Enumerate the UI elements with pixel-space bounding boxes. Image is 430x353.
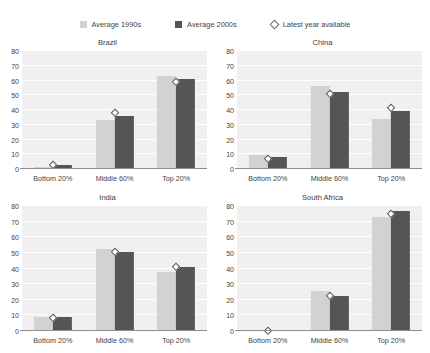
x-axis-tick-label: Top 20%: [377, 336, 405, 345]
plot-area: 01020304050607080Bottom 20%Middle 60%Top…: [237, 206, 422, 331]
bar-average-2000s: [115, 116, 134, 169]
bar-average-2000s: [176, 79, 195, 169]
bar-pair: [157, 51, 195, 169]
bar-average-2000s: [391, 111, 410, 169]
dark-square-swatch-icon: [175, 21, 182, 28]
x-axis-tick-label: Middle 60%: [96, 336, 134, 345]
plot-wrapper: 01020304050607080Bottom 20%Middle 60%Top…: [22, 51, 207, 169]
y-axis-tick-label: 70: [226, 218, 234, 225]
bar-average-1990s: [157, 76, 176, 169]
legend-item-average-2000s: Average 2000s: [175, 20, 237, 29]
y-axis-tick-label: 50: [226, 249, 234, 256]
bar-pair: [249, 206, 287, 331]
y-axis-tick-label: 80: [11, 48, 19, 55]
x-axis-baseline: [235, 168, 422, 169]
bar-groups: Bottom 20%Middle 60%Top 20%: [22, 51, 207, 169]
legend-item-average-1990s: Average 1990s: [80, 20, 142, 29]
x-axis-tick-label: Bottom 20%: [248, 174, 287, 183]
y-axis-tick-label: 40: [226, 107, 234, 114]
x-axis-baseline: [20, 168, 207, 169]
chart-panel-brazil: Brazil01020304050607080Bottom 20%Middle …: [0, 36, 215, 191]
chart-panel-grid: Brazil01020304050607080Bottom 20%Middle …: [0, 36, 430, 353]
plot-wrapper: 01020304050607080Bottom 20%Middle 60%Top…: [22, 206, 207, 331]
y-axis-tick-label: 40: [226, 265, 234, 272]
y-axis-tick-label: 80: [11, 203, 19, 210]
y-axis-tick-label: 80: [226, 48, 234, 55]
bar-average-2000s: [115, 252, 134, 331]
legend-label-average-2000s: Average 2000s: [187, 20, 237, 29]
y-axis-tick-label: 60: [11, 77, 19, 84]
y-axis-tick-label: 30: [226, 281, 234, 288]
chart-figure: Average 1990s Average 2000s Latest year …: [0, 0, 430, 353]
y-axis-tick-label: 30: [226, 121, 234, 128]
chart-panel-south-africa: South Africa01020304050607080Bottom 20%M…: [215, 191, 430, 353]
plot-area: 01020304050607080Bottom 20%Middle 60%Top…: [22, 206, 207, 331]
bar-average-2000s: [330, 92, 349, 169]
chart-panel-china: China01020304050607080Bottom 20%Middle 6…: [215, 36, 430, 191]
bar-average-1990s: [372, 119, 391, 169]
bar-average-1990s: [95, 120, 114, 169]
x-axis-tick-label: Top 20%: [377, 174, 405, 183]
y-axis-tick-label: 50: [11, 92, 19, 99]
bar-pair: [95, 206, 133, 331]
legend-item-latest-year: Latest year available: [271, 20, 351, 29]
y-axis-tick-label: 40: [11, 265, 19, 272]
y-axis-tick-label: 10: [11, 151, 19, 158]
bar-groups: Bottom 20%Middle 60%Top 20%: [237, 206, 422, 331]
plot-area: 01020304050607080Bottom 20%Middle 60%Top…: [237, 51, 422, 169]
panel-title: India: [0, 193, 215, 202]
light-square-swatch-icon: [80, 21, 87, 28]
y-axis-tick-label: 40: [11, 107, 19, 114]
y-axis-tick-label: 0: [15, 328, 19, 335]
bar-average-2000s: [330, 296, 349, 331]
y-axis-tick-label: 50: [11, 249, 19, 256]
bar-average-1990s: [157, 272, 176, 331]
y-axis-tick-label: 0: [230, 328, 234, 335]
y-axis-tick-label: 20: [11, 296, 19, 303]
panel-title: Brazil: [0, 38, 215, 47]
y-axis-tick-label: 20: [11, 136, 19, 143]
bar-pair: [34, 206, 72, 331]
y-axis-tick-label: 20: [226, 136, 234, 143]
y-axis-tick-label: 60: [226, 234, 234, 241]
bar-group: Top 20%: [145, 206, 207, 331]
x-axis-tick-label: Middle 60%: [96, 174, 134, 183]
x-axis-tick-label: Bottom 20%: [248, 336, 287, 345]
bar-pair: [249, 51, 287, 169]
y-axis-tick-label: 10: [11, 312, 19, 319]
y-axis-tick-label: 20: [226, 296, 234, 303]
bar-group: Top 20%: [360, 206, 422, 331]
bar-group: Middle 60%: [84, 206, 146, 331]
x-axis-tick-label: Bottom 20%: [33, 336, 72, 345]
x-axis-tick-label: Middle 60%: [311, 336, 349, 345]
y-axis-tick-label: 70: [226, 62, 234, 69]
x-axis-baseline: [235, 330, 422, 331]
bar-group: Top 20%: [145, 51, 207, 169]
x-axis-tick-label: Middle 60%: [311, 174, 349, 183]
bar-group: Top 20%: [360, 51, 422, 169]
bar-group: Bottom 20%: [237, 206, 299, 331]
bar-group: Middle 60%: [299, 206, 361, 331]
y-axis-tick-label: 50: [226, 92, 234, 99]
bar-group: Bottom 20%: [22, 51, 84, 169]
panel-title: China: [215, 38, 430, 47]
bar-pair: [372, 206, 410, 331]
bar-pair: [310, 51, 348, 169]
bar-group: Middle 60%: [84, 51, 146, 169]
bar-groups: Bottom 20%Middle 60%Top 20%: [237, 51, 422, 169]
bar-average-2000s: [391, 211, 410, 331]
plot-wrapper: 01020304050607080Bottom 20%Middle 60%Top…: [237, 51, 422, 169]
y-axis-tick-label: 30: [11, 121, 19, 128]
bar-average-1990s: [95, 249, 114, 331]
y-axis-tick-label: 0: [230, 166, 234, 173]
y-axis-tick-label: 0: [15, 166, 19, 173]
chart-legend: Average 1990s Average 2000s Latest year …: [0, 14, 430, 34]
y-axis-tick-label: 70: [11, 218, 19, 225]
bar-groups: Bottom 20%Middle 60%Top 20%: [22, 206, 207, 331]
y-axis-tick-label: 10: [226, 312, 234, 319]
y-axis-tick-label: 70: [11, 62, 19, 69]
legend-label-average-1990s: Average 1990s: [92, 20, 142, 29]
bar-pair: [310, 206, 348, 331]
x-axis-tick-label: Top 20%: [162, 336, 190, 345]
y-axis-tick-label: 80: [226, 203, 234, 210]
